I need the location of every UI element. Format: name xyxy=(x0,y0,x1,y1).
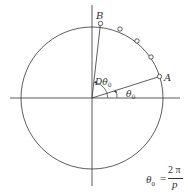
theta-formula: θ0 = 2 π p xyxy=(146,164,188,194)
formula-denominator: p xyxy=(172,178,178,190)
formula-equals: = xyxy=(160,172,166,184)
label-theta0: θ0 xyxy=(126,89,135,100)
point-b-marker xyxy=(98,21,102,25)
point-marker xyxy=(149,55,153,59)
formula-numerator: 2 π xyxy=(168,164,181,175)
point-marker xyxy=(118,27,122,31)
label-a: A xyxy=(163,72,171,83)
formula-lhs: θ0 xyxy=(146,173,155,185)
point-marker xyxy=(135,39,139,43)
label-b: B xyxy=(95,10,103,21)
point-a-marker xyxy=(157,74,161,78)
label-dtheta0: Dθ0 xyxy=(94,77,112,88)
